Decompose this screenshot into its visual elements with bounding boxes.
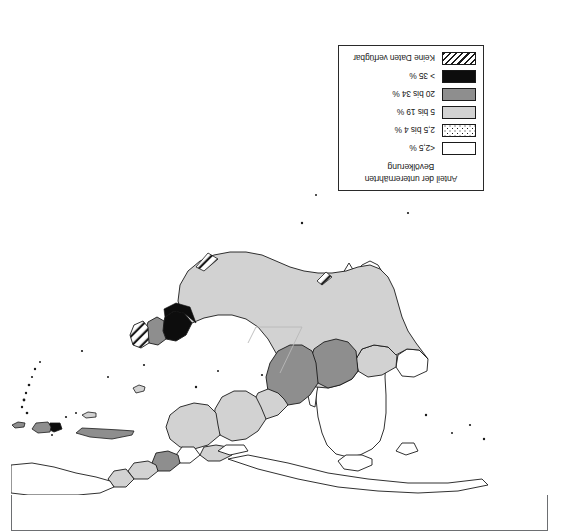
legend-label-lt-2-5: <2,5 %: [409, 144, 435, 154]
legend-label-5-to-19: 5 bis 19 %: [397, 108, 435, 118]
map-figure-rotated: Anteil der unterernährten Bevölkerung <2…: [11, 11, 548, 495]
legend-swatch-dark-gray: [442, 88, 476, 101]
legend-swatch-black: [442, 70, 476, 83]
legend-item-gt-35: > 35 %: [346, 68, 476, 85]
legend-title-line1: Anteil der unterernährten: [346, 174, 476, 185]
legend-label-20-to-34: 20 bis 34 %: [392, 90, 435, 100]
legend-label-no-data: Keine Daten verfügbar: [353, 54, 435, 64]
legend-item-2-5-to-4: 2,5 bis 4 %: [346, 122, 476, 139]
legend-label-gt-35: > 35 %: [409, 72, 435, 82]
legend-title-line2: Bevölkerung: [346, 162, 476, 173]
map-legend: Anteil der unterernährten Bevölkerung <2…: [338, 45, 484, 191]
legend-item-20-to-34: 20 bis 34 %: [346, 86, 476, 103]
legend-swatch-white: [442, 142, 476, 155]
legend-item-no-data: Keine Daten verfügbar: [346, 50, 476, 67]
legend-label-2-5-to-4: 2,5 bis 4 %: [395, 126, 435, 136]
legend-swatch-light-gray: [442, 106, 476, 119]
legend-swatch-hatched: [442, 52, 476, 65]
legend-item-lt-2-5: <2,5 %: [346, 140, 476, 157]
legend-item-5-to-19: 5 bis 19 %: [346, 104, 476, 121]
legend-swatch-dotted: [442, 124, 476, 137]
